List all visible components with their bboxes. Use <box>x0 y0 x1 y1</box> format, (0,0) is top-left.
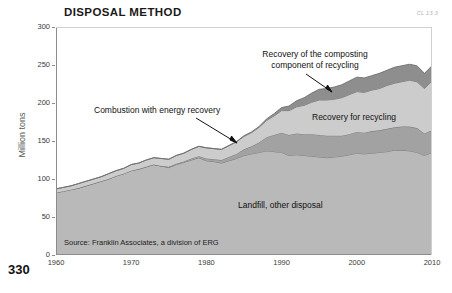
y-tick-mark-50 <box>52 217 55 218</box>
annotation-recycling: Recovery for recycling <box>312 112 396 123</box>
page-title: DISPOSAL METHOD <box>64 6 182 18</box>
annotation-composting-line2: component of recycling <box>271 60 358 70</box>
source-note: Source: Franklin Associates, a division … <box>64 238 219 247</box>
y-tick-mark-0 <box>52 255 55 256</box>
figure-disposal-method: DISPOSAL METHOD CL 13.3 330 Million tons… <box>0 0 452 293</box>
y-tick-mark-100 <box>52 179 55 180</box>
y-tick-mark-200 <box>52 103 55 104</box>
y-tick-label-50: 50 <box>24 212 50 221</box>
x-tick-label-1960: 1960 <box>41 258 71 267</box>
y-axis-title: Million tons <box>17 95 27 175</box>
annotation-composting: Recovery of the composting component of … <box>235 49 395 71</box>
x-tick-label-2000: 2000 <box>342 258 372 267</box>
figure-code-label: CL 13.3 <box>417 10 438 16</box>
x-tick-label-2010: 2010 <box>417 258 447 267</box>
y-tick-label-300: 300 <box>24 22 50 31</box>
y-tick-label-100: 100 <box>24 174 50 183</box>
annotation-combustion: Combustion with energy recovery <box>94 105 220 116</box>
annotation-composting-line1: Recovery of the composting <box>262 49 367 59</box>
y-tick-mark-150 <box>52 141 55 142</box>
y-tick-label-250: 250 <box>24 60 50 69</box>
x-tick-label-1990: 1990 <box>267 258 297 267</box>
y-tick-mark-300 <box>52 27 55 28</box>
x-tick-label-1970: 1970 <box>116 258 146 267</box>
annotation-landfill: Landfill, other disposal <box>238 200 323 211</box>
y-tick-label-150: 150 <box>24 136 50 145</box>
y-tick-label-200: 200 <box>24 98 50 107</box>
x-tick-label-1980: 1980 <box>191 258 221 267</box>
page-number: 330 <box>8 262 30 277</box>
y-tick-mark-250 <box>52 65 55 66</box>
